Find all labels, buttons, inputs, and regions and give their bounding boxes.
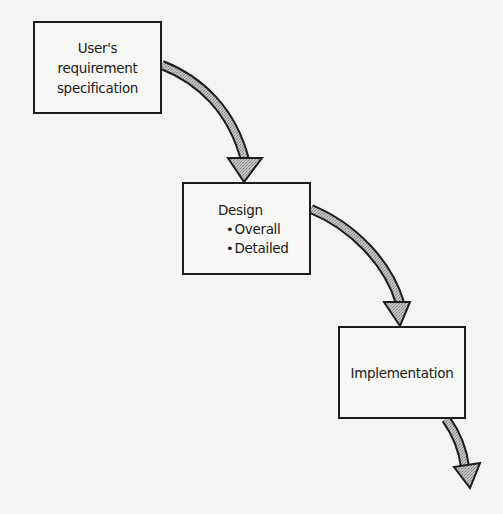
stage-title: Design bbox=[218, 200, 263, 220]
arrow-spec-to-design bbox=[162, 65, 262, 182]
design-bullet-list: •Overall •Detailed bbox=[218, 220, 289, 258]
bullet-icon: • bbox=[226, 220, 233, 239]
stage-box-user-requirement-specification: User's requirement specification bbox=[33, 21, 162, 114]
stage-label-line: specification bbox=[57, 78, 138, 98]
bullet-icon: • bbox=[226, 239, 233, 258]
bullet-item: •Overall bbox=[226, 220, 289, 239]
stage-label-line: User's bbox=[78, 38, 118, 58]
stage-title: Implementation bbox=[351, 363, 454, 383]
stage-box-implementation: Implementation bbox=[338, 326, 466, 419]
arrowhead-icon bbox=[454, 463, 480, 488]
arrowhead-icon bbox=[228, 158, 262, 182]
bullet-text: Detailed bbox=[234, 240, 288, 256]
arrow-implementation-to-next bbox=[446, 419, 480, 488]
bullet-item: •Detailed bbox=[226, 239, 289, 258]
stage-box-design: Design •Overall •Detailed bbox=[182, 182, 311, 275]
arrow-design-to-implementation bbox=[311, 209, 410, 326]
stage-label-line: requirement bbox=[57, 58, 137, 78]
arrowhead-icon bbox=[384, 302, 410, 326]
waterfall-diagram: User's requirement specification Design … bbox=[0, 0, 503, 514]
bullet-text: Overall bbox=[234, 221, 280, 237]
